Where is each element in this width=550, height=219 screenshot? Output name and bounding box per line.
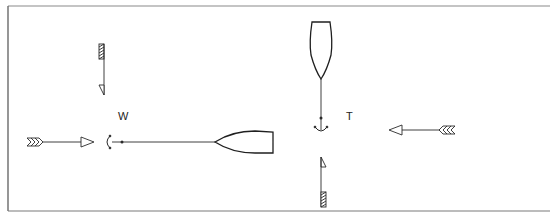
arrowhead-icon <box>81 137 94 147</box>
hatched-fletching-icon <box>99 44 104 59</box>
anchor-w-icon <box>107 135 111 149</box>
boat-w-hull <box>215 131 273 153</box>
diagram-canvas <box>0 0 550 219</box>
label-w: W <box>118 110 128 122</box>
diagram-frame <box>8 6 550 211</box>
feather-fletching-icon <box>27 138 43 146</box>
right-horizontal-arrow <box>389 125 455 135</box>
half-arrowhead-icon <box>99 85 104 95</box>
label-t: T <box>346 110 353 122</box>
feather-fletching-icon <box>439 126 455 134</box>
right-vertical-arrow <box>321 157 326 207</box>
left-vertical-arrow <box>99 44 104 95</box>
arrowhead-icon <box>389 125 402 135</box>
half-arrowhead-icon <box>321 157 326 167</box>
hatched-fletching-icon <box>321 192 326 207</box>
anchor-shackle-dot <box>320 117 323 120</box>
left-horizontal-arrow <box>27 137 94 147</box>
boat-t-hull <box>310 22 332 79</box>
